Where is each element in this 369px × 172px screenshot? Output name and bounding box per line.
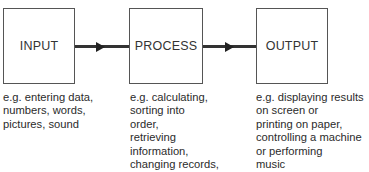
input-box: INPUT (3, 8, 75, 84)
output-box: OUTPUT (256, 8, 328, 84)
arrowhead-icon (96, 42, 105, 52)
arrowhead-icon (225, 42, 234, 52)
output-description: e.g. displaying results on screen or pri… (256, 91, 364, 171)
description-line: controlling a machine (256, 131, 364, 144)
description-line: sorting into (130, 104, 219, 117)
description-line: retrieving (130, 131, 219, 144)
description-line: information, (130, 145, 219, 158)
description-line: e.g. displaying results (256, 91, 364, 104)
description-line: on screen or (256, 104, 364, 117)
process-box: PROCESS (129, 8, 203, 84)
output-label: OUTPUT (266, 39, 319, 53)
description-line: or performing (256, 145, 364, 158)
process-description: e.g. calculating, sorting into order, re… (130, 91, 219, 172)
description-line: e.g. entering data, (3, 91, 93, 104)
input-description: e.g. entering data, numbers, words, pict… (3, 91, 93, 131)
description-line: printing on paper, (256, 118, 364, 131)
description-line: e.g. calculating, (130, 91, 219, 104)
description-line: changing records, (130, 158, 219, 171)
description-line: music (256, 158, 364, 171)
description-line: order, (130, 118, 219, 131)
input-label: INPUT (20, 39, 59, 53)
description-line: text (130, 171, 219, 172)
description-line: numbers, words, (3, 104, 93, 117)
process-label: PROCESS (135, 39, 198, 53)
description-line: pictures, sound (3, 118, 93, 131)
